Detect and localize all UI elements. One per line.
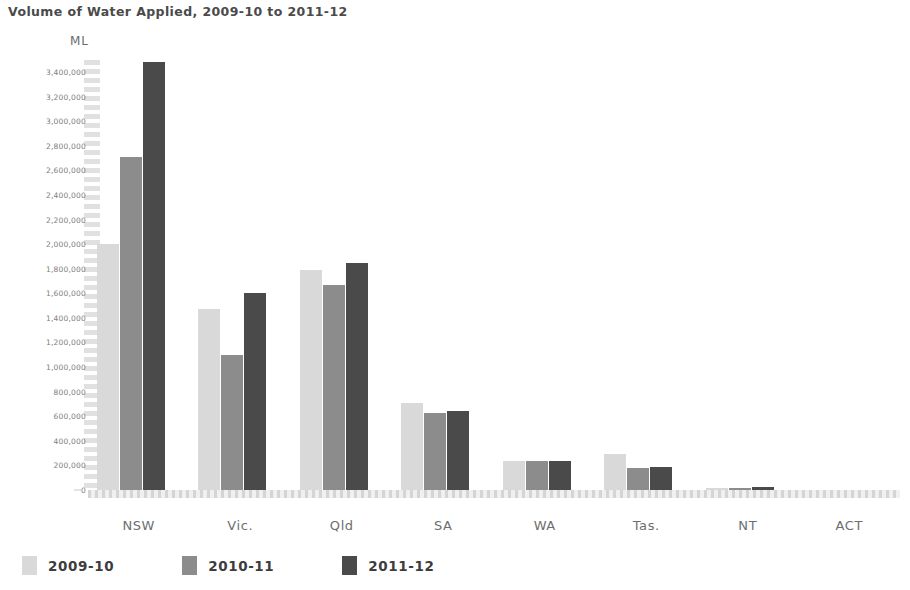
- bar-group: [596, 60, 698, 490]
- y-axis-tick-mark: [74, 465, 83, 466]
- bar: [447, 411, 469, 490]
- legend-label: 2011-12: [368, 558, 434, 574]
- bar: [627, 468, 649, 490]
- bar-group: [393, 60, 495, 490]
- bar: [97, 244, 119, 490]
- y-axis-tick-mark: [74, 268, 83, 269]
- bar-group: [88, 60, 190, 490]
- bar: [143, 62, 165, 490]
- bar: [120, 157, 142, 490]
- legend-label: 2009-10: [48, 558, 114, 574]
- y-axis-tick-mark: [74, 317, 83, 318]
- legend-swatch: [342, 556, 357, 575]
- bar-group: [190, 60, 292, 490]
- y-axis-tick-mark: [74, 367, 83, 368]
- legend-item[interactable]: 2009-10: [22, 556, 114, 575]
- bar: [650, 467, 672, 490]
- y-axis-tick-label: 1,600,000: [0, 289, 86, 298]
- legend-item[interactable]: 2011-12: [342, 556, 434, 575]
- x-axis-label: Qld: [291, 518, 393, 533]
- x-axis-label: Tas.: [596, 518, 698, 533]
- x-axis-label: SA: [393, 518, 495, 533]
- legend-item[interactable]: 2010-11: [182, 556, 274, 575]
- bar: [401, 403, 423, 490]
- bar: [604, 454, 626, 490]
- bar-group: [494, 60, 596, 490]
- x-axis-baseline-texture: [88, 490, 900, 498]
- y-axis-tick-mark: [74, 170, 83, 171]
- y-axis-tick-label: 2,800,000: [0, 141, 86, 150]
- y-axis-tick-mark: [74, 490, 83, 491]
- x-axis-label: NT: [697, 518, 799, 533]
- y-axis-tick-label: 2,400,000: [0, 190, 86, 199]
- y-axis-tick-label: 400,000: [0, 436, 86, 445]
- legend-swatch: [22, 556, 37, 575]
- bar: [503, 461, 525, 490]
- x-axis-label: NSW: [88, 518, 190, 533]
- y-axis-tick-label: 3,200,000: [0, 92, 86, 101]
- y-axis-tick-mark: [74, 416, 83, 417]
- bar-group: [697, 60, 799, 490]
- legend-label: 2010-11: [208, 558, 274, 574]
- y-axis-tick-label: 1,200,000: [0, 338, 86, 347]
- plot-area: [88, 60, 900, 490]
- y-axis-tick-label: 2,000,000: [0, 240, 86, 249]
- bar: [424, 413, 446, 490]
- x-axis-label: WA: [494, 518, 596, 533]
- legend-swatch: [182, 556, 197, 575]
- bar: [549, 461, 571, 490]
- bar: [346, 263, 368, 490]
- y-axis-unit-label: ML: [70, 34, 89, 48]
- chart-legend: 2009-102010-112011-12: [22, 556, 503, 575]
- y-axis-tick-mark: [74, 121, 83, 122]
- bar: [198, 309, 220, 490]
- bar: [221, 355, 243, 490]
- y-axis-tick-mark: [74, 219, 83, 220]
- x-axis-label: ACT: [799, 518, 901, 533]
- bar: [323, 285, 345, 490]
- chart-title: Volume of Water Applied, 2009-10 to 2011…: [8, 4, 348, 19]
- x-axis-label: Vic.: [190, 518, 292, 533]
- bar: [244, 293, 266, 490]
- y-axis-tick-mark: [74, 72, 83, 73]
- y-axis-tick-label: 800,000: [0, 387, 86, 396]
- bar-group: [291, 60, 393, 490]
- bar-group: [799, 60, 901, 490]
- bar-chart: Volume of Water Applied, 2009-10 to 2011…: [0, 0, 910, 590]
- bar: [526, 461, 548, 490]
- x-axis-baseline: [88, 490, 900, 498]
- bar: [300, 270, 322, 490]
